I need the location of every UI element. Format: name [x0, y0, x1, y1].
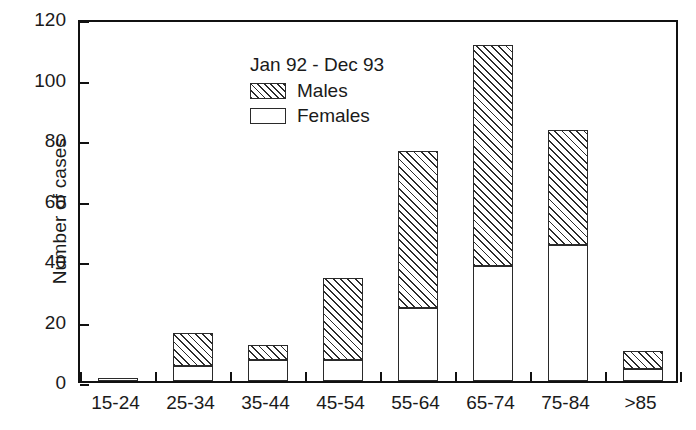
- bar-segment-females: [98, 378, 138, 381]
- bar-segment-males: [548, 130, 588, 245]
- y-tick-label: 40: [0, 251, 66, 273]
- y-tick-label: 20: [0, 312, 66, 334]
- x-tick-mark: [230, 372, 232, 382]
- legend-title: Jan 92 - Dec 93: [250, 52, 384, 77]
- bar-45-54: [323, 278, 363, 381]
- y-tick-mark: [80, 21, 89, 23]
- legend-label-males: Males: [297, 78, 348, 103]
- bar-segment-females: [548, 245, 588, 381]
- y-tick-mark: [80, 82, 89, 84]
- legend-swatch-females-icon: [250, 108, 286, 124]
- bar-25-34: [173, 333, 213, 381]
- x-tick-mark: [680, 372, 682, 382]
- plot-area: 020406080100120 Jan 92 - Dec 93 Males Fe…: [78, 20, 678, 383]
- bar-segment-males: [323, 278, 363, 360]
- bar-15-24: [98, 378, 138, 381]
- y-tick-mark: [80, 142, 89, 144]
- legend-label-females: Females: [297, 103, 370, 128]
- x-axis-label-55-64: 55-64: [378, 392, 453, 414]
- bar-segment-females: [473, 266, 513, 381]
- x-tick-mark: [455, 372, 457, 382]
- y-tick-mark: [80, 203, 89, 205]
- y-tick-label: 80: [0, 130, 66, 152]
- legend-item-males: Males: [250, 78, 384, 103]
- legend: Jan 92 - Dec 93 Males Females: [250, 52, 384, 128]
- x-axis-label-75-84: 75-84: [528, 392, 603, 414]
- bar-segment-males: [173, 333, 213, 366]
- bar->85: [623, 351, 663, 381]
- x-axis-label-65-74: 65-74: [453, 392, 528, 414]
- bar-75-84: [548, 130, 588, 381]
- bar-segment-males: [398, 151, 438, 308]
- bar-segment-males: [248, 345, 288, 360]
- bar-segment-females: [323, 360, 363, 381]
- bar-chart: Number of cases 020406080100120 Jan 92 -…: [0, 0, 696, 430]
- bar-segment-females: [248, 360, 288, 381]
- x-tick-mark: [380, 372, 382, 382]
- bar-35-44: [248, 345, 288, 381]
- x-tick-mark: [530, 372, 532, 382]
- x-axis-label-35-44: 35-44: [228, 392, 303, 414]
- bar-segment-females: [173, 366, 213, 381]
- bar-55-64: [398, 151, 438, 381]
- legend-item-females: Females: [250, 103, 384, 128]
- y-tick-label: 0: [0, 372, 66, 394]
- bar-segment-males: [473, 45, 513, 266]
- x-axis-label->85: >85: [603, 392, 678, 414]
- bar-segment-females: [623, 369, 663, 381]
- y-tick-mark: [80, 384, 89, 386]
- x-axis-label-15-24: 15-24: [78, 392, 153, 414]
- x-tick-mark: [155, 372, 157, 382]
- x-tick-mark: [80, 372, 82, 382]
- x-axis-label-45-54: 45-54: [303, 392, 378, 414]
- bar-segment-females: [398, 308, 438, 381]
- bar-65-74: [473, 45, 513, 381]
- legend-swatch-males-icon: [250, 83, 286, 99]
- y-tick-label: 120: [0, 9, 66, 31]
- y-tick-mark: [80, 324, 89, 326]
- x-axis-label-25-34: 25-34: [153, 392, 228, 414]
- x-tick-mark: [605, 372, 607, 382]
- bar-segment-males: [623, 351, 663, 369]
- y-tick-label: 100: [0, 70, 66, 92]
- y-tick-mark: [80, 263, 89, 265]
- y-tick-label: 60: [0, 191, 66, 213]
- x-tick-mark: [305, 372, 307, 382]
